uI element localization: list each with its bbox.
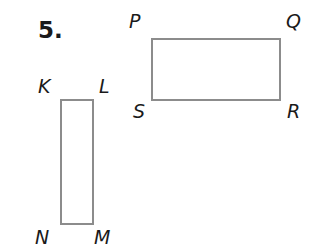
vertex-label-l: L [99,77,110,96]
vertex-label-m: M [94,228,110,247]
vertex-label-k: K [38,77,50,96]
vertex-label-s: S [133,102,145,121]
problem-number: 5. [38,17,63,43]
vertex-label-n: N [35,228,49,247]
vertex-label-q: Q [286,12,301,31]
vertex-label-p: P [129,12,140,31]
rectangle-pqrs [151,38,281,101]
rectangle-klmn [60,99,94,225]
vertex-label-r: R [287,102,300,121]
